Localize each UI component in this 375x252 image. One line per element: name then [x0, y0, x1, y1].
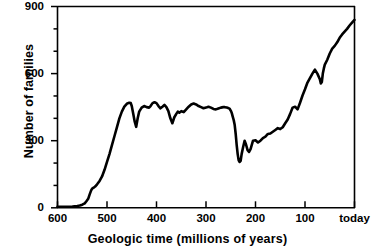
- x-tick-label: 200: [246, 212, 265, 224]
- biodiversity-chart: 0300600900 600500400300200100today Numbe…: [0, 0, 375, 252]
- x-tick-label: today: [339, 212, 370, 224]
- y-tick-label: 900: [0, 0, 44, 12]
- x-tick-label: 600: [48, 212, 67, 224]
- x-tick-label: 500: [97, 212, 116, 224]
- x-tick-label: 100: [295, 212, 314, 224]
- y-axis-title: Number of families: [22, 26, 36, 176]
- x-axis-title: Geologic time (millions of years): [0, 232, 375, 246]
- x-tick-marks: [58, 201, 355, 208]
- x-tick-label: 300: [196, 212, 215, 224]
- data-series-line: [58, 20, 355, 207]
- x-tick-label: 400: [147, 212, 166, 224]
- y-tick-label: 0: [0, 201, 44, 213]
- y-tick-marks: [51, 7, 58, 208]
